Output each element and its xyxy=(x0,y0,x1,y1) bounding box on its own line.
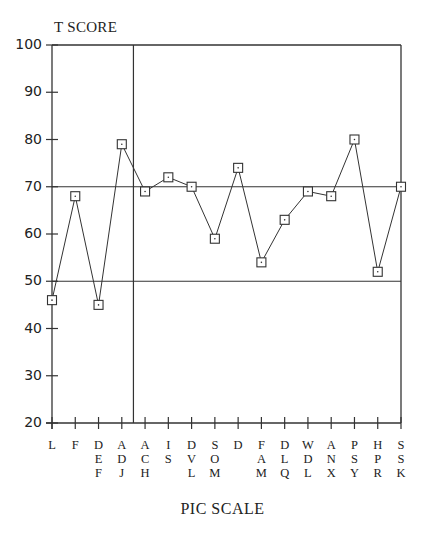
data-point-dot xyxy=(330,195,332,197)
data-point-dot xyxy=(377,271,379,273)
x-category-label-dlq: DLQ xyxy=(277,438,293,480)
data-point-dot xyxy=(237,167,239,169)
x-category-label-d: D xyxy=(230,438,246,452)
x-category-label-ach: ACH xyxy=(137,438,153,480)
data-point-dot xyxy=(400,186,402,188)
y-tick-label: 60 xyxy=(4,225,42,241)
data-point-dot xyxy=(121,143,123,145)
data-point-dot xyxy=(98,304,100,306)
y-tick-label: 70 xyxy=(4,178,42,194)
x-category-label-psy: PSY xyxy=(346,438,362,480)
data-point-dot xyxy=(261,262,263,264)
data-point-dot xyxy=(74,195,76,197)
y-tick-label: 40 xyxy=(4,320,42,336)
y-tick-label: 80 xyxy=(4,131,42,147)
y-tick-label: 50 xyxy=(4,272,42,288)
data-series-line xyxy=(52,140,401,305)
x-category-label-adj: ADJ xyxy=(114,438,130,480)
chart-container: T SCORE 1009080706050403020 LFDEFADJACHI… xyxy=(0,0,425,542)
y-tick-label: 100 xyxy=(4,36,42,52)
data-point-dot xyxy=(51,299,53,301)
x-category-label-fam: FAM xyxy=(253,438,269,480)
y-tick-label: 90 xyxy=(4,83,42,99)
x-category-label-def: DEF xyxy=(91,438,107,480)
y-axis-title: T SCORE xyxy=(54,19,117,36)
y-tick-label: 20 xyxy=(4,414,42,430)
data-point-dot xyxy=(168,177,170,179)
x-category-label-ssk: SSK xyxy=(393,438,409,480)
x-category-label-dvl: DVL xyxy=(184,438,200,480)
x-category-label-wdl: WDL xyxy=(300,438,316,480)
data-point-dot xyxy=(214,238,216,240)
data-point-dot xyxy=(191,186,193,188)
x-category-label-som: SOM xyxy=(207,438,223,480)
data-point-dot xyxy=(307,191,309,193)
x-axis-title: PIC SCALE xyxy=(0,500,425,518)
x-category-label-is: IS xyxy=(160,438,176,466)
x-category-label-f: F xyxy=(67,438,83,452)
x-category-label-l: L xyxy=(44,438,60,452)
y-tick-label: 30 xyxy=(4,367,42,383)
x-category-label-hpr: HPR xyxy=(370,438,386,480)
data-point-dot xyxy=(354,139,356,141)
data-point-dot xyxy=(144,191,146,193)
data-point-dot xyxy=(284,219,286,221)
x-category-label-anx: ANX xyxy=(323,438,339,480)
